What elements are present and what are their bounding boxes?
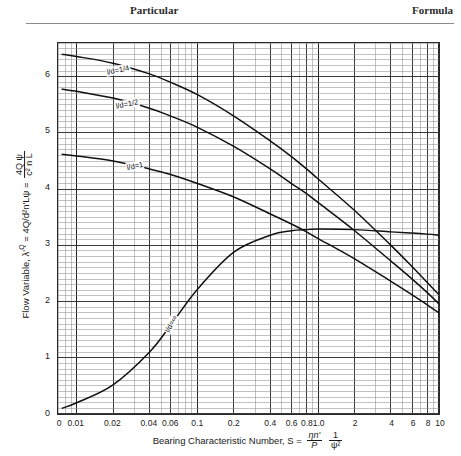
x-frac1-numerator: ηn': [307, 431, 323, 440]
x-tick-label: 0.06: [162, 418, 179, 428]
header-divider: [26, 23, 454, 24]
x-tick-label: 0.04: [141, 418, 158, 428]
x-tick-label: 0.02: [104, 418, 121, 428]
y-axis-title: Flow Variable, λ'Q = 4Q/d²n'Lψ = 4Q ψ c²…: [16, 54, 36, 414]
x-tick-label: 8: [426, 418, 431, 428]
x-tick-label: 0.6: [286, 418, 298, 428]
x-tick-label: 6: [411, 418, 416, 428]
x-tick-label: 0.8: [301, 418, 313, 428]
curve-lines: [58, 43, 439, 414]
x-tick-label: 0: [57, 418, 62, 428]
x-tick-label: 1.0: [313, 418, 325, 428]
x-tick-label: 0.4: [264, 418, 276, 428]
y-axis-title-prefix: Flow Variable, λ': [20, 250, 31, 319]
curve-l-d-1-2: [62, 89, 439, 304]
chart-container: l/d=1/4l/d=1/2l/d=1l/d=∞ 00.010.020.040.…: [0, 30, 461, 456]
y-frac-denominator: c² n L: [25, 151, 35, 178]
x-tick-label: 0.1: [191, 418, 203, 428]
x-tick-label: 10: [435, 418, 444, 428]
curve-l-d-1-4: [62, 54, 439, 295]
y-axis-title-middle: = 4Q/d²n'Lψ =: [20, 182, 31, 244]
x-axis-title-text: Bearing Characteristic Number, S =: [153, 435, 302, 446]
curve-l-d-1: [62, 154, 439, 313]
x-frac1-denominator: P: [307, 440, 323, 450]
x-axis-fraction-one-over-psi-squared: 1 ψ²: [329, 431, 342, 451]
y-frac-numerator: 4Q ψ: [15, 151, 24, 178]
x-frac2-numerator: 1: [329, 431, 342, 440]
document-header: Particular Formula: [0, 0, 461, 30]
curve-l-d-infinity: [62, 229, 439, 408]
x-tick-label: 0.2: [228, 418, 240, 428]
y-axis-title-subscript: Q: [18, 244, 25, 249]
x-tick-label: 4: [389, 418, 394, 428]
x-axis-title: Bearing Characteristic Number, S = ηn' P…: [57, 432, 440, 452]
header-particular-label: Particular: [130, 4, 178, 16]
x-tick-label: 2: [353, 418, 358, 428]
x-axis-fraction-eta-n-over-p: ηn' P: [307, 431, 323, 451]
x-frac2-denominator: ψ²: [329, 440, 342, 450]
x-tick-label: 0.01: [68, 418, 85, 428]
header-formula-label: Formula: [412, 4, 453, 16]
plot-area: l/d=1/4l/d=1/2l/d=1l/d=∞: [57, 42, 440, 415]
y-axis-fraction: 4Q ψ c² n L: [15, 151, 35, 178]
